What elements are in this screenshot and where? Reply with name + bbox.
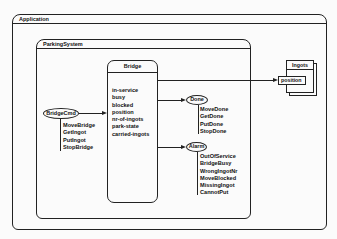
alarm-item: OutOfService [200, 153, 238, 160]
bridge-cmd-arrowhead [102, 111, 107, 115]
done-item: StopDone [200, 128, 228, 135]
bridge-cmd-ellipse: BridgeCmd [43, 108, 79, 119]
bridge-box: Bridge in-service busy blocked position … [107, 60, 158, 203]
bridge-attr: in-service [112, 87, 149, 94]
done-stem [198, 105, 199, 134]
bridge-attr: park-state [112, 123, 149, 130]
bridge-attr: position [112, 109, 149, 116]
done-items: MoveDone GetDone PutDone StopDone [200, 106, 228, 135]
alarm-item: BridgeBusy [200, 160, 238, 167]
bridge-attr: nr-of-ingots [112, 116, 149, 123]
done-arrow-line [158, 100, 182, 101]
bridge-attr: busy [112, 94, 149, 101]
done-ellipse: Done [186, 95, 208, 105]
done-item: PutDone [200, 121, 228, 128]
bridge-title: Bridge [108, 61, 157, 73]
bridge-cmd-items: MoveBridge GetIngot PutIngot StopBridge [63, 122, 95, 151]
ingots-title: Ingots [287, 61, 313, 70]
bridge-attributes: in-service busy blocked position nr-of-i… [112, 87, 149, 138]
alarm-ellipse: Alarm [186, 142, 207, 152]
alarm-item: MoveBlocked [200, 175, 238, 182]
bridge-cmd-item: GetIngot [63, 129, 95, 136]
done-item: GetDone [200, 113, 228, 120]
bridge-cmd-stem [60, 119, 61, 151]
bridge-cmd-item: MoveBridge [63, 122, 95, 129]
alarm-stem [197, 152, 198, 195]
bridge-cmd-item: StopBridge [63, 144, 95, 151]
ingots-position-box: position [278, 76, 306, 85]
parking-system-title: ParkingSystem [37, 40, 250, 49]
alarm-item: CannotPut [200, 189, 238, 196]
alarm-item: MissingIngot [200, 182, 238, 189]
alarm-items: OutOfService BridgeBusy WrongIngotNr Mov… [200, 153, 238, 197]
bridge-cmd-arrow-line [79, 113, 102, 114]
bridge-cmd-item: PutIngot [63, 137, 95, 144]
bridge-attr: carried-ingots [112, 131, 149, 138]
application-title: Application [13, 15, 326, 24]
alarm-item: WrongIngotNr [200, 168, 238, 175]
done-item: MoveDone [200, 106, 228, 113]
alarm-arrow-line [158, 147, 182, 148]
bridge-attr: blocked [112, 102, 149, 109]
ingots-arrow-line [158, 80, 273, 81]
